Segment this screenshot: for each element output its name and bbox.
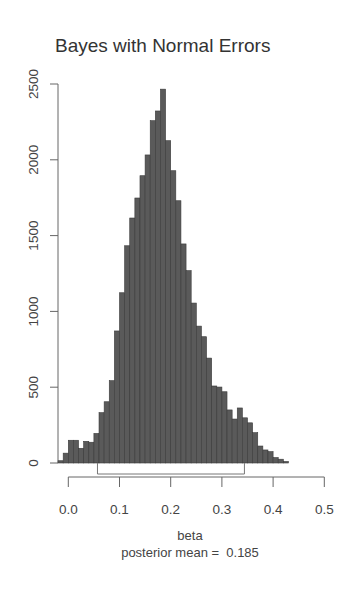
histogram-bar bbox=[89, 442, 94, 463]
x-tick-label: 0.3 bbox=[213, 502, 232, 517]
credible-interval-bracket bbox=[97, 463, 244, 474]
histogram-bar bbox=[171, 171, 176, 463]
histogram-bar bbox=[145, 155, 150, 463]
histogram-bar bbox=[278, 459, 283, 463]
histogram-bar bbox=[176, 201, 181, 463]
y-tick-label: 500 bbox=[26, 376, 41, 399]
x-tick-label: 0.1 bbox=[110, 502, 129, 517]
histogram-bar bbox=[242, 418, 247, 463]
histogram-bar bbox=[166, 141, 171, 463]
x-tick-label: 0.2 bbox=[161, 502, 180, 517]
histogram-bar bbox=[181, 244, 186, 463]
histogram-bar bbox=[258, 446, 263, 463]
histogram-bars bbox=[58, 89, 288, 463]
y-tick-label: 0 bbox=[26, 459, 41, 467]
y-tick-label: 2000 bbox=[26, 145, 41, 175]
histogram-bar bbox=[63, 453, 68, 463]
histogram-bar bbox=[273, 458, 278, 463]
histogram-bar bbox=[263, 450, 268, 463]
histogram-bar bbox=[140, 176, 145, 463]
y-tick-label: 1000 bbox=[26, 296, 41, 326]
histogram-bar bbox=[248, 423, 253, 463]
histogram-bar bbox=[155, 111, 160, 463]
histogram-bar bbox=[222, 392, 227, 463]
y-axis: 05001000150020002500 bbox=[26, 69, 58, 467]
histogram-bar bbox=[130, 218, 135, 463]
histogram-bar bbox=[160, 89, 165, 463]
histogram-bar bbox=[253, 433, 258, 463]
credible-interval-marker bbox=[97, 463, 244, 474]
histogram-bar bbox=[283, 461, 288, 463]
histogram-bar bbox=[79, 448, 84, 463]
histogram-bar bbox=[232, 419, 237, 463]
y-tick-label: 2500 bbox=[26, 69, 41, 99]
histogram-bar bbox=[68, 440, 73, 463]
y-tick-label: 1500 bbox=[26, 221, 41, 251]
histogram-bar bbox=[104, 402, 109, 463]
x-axis-label: beta bbox=[177, 528, 203, 543]
histogram-bar bbox=[237, 408, 242, 463]
histogram-bar bbox=[58, 461, 63, 463]
histogram-bar bbox=[99, 413, 104, 463]
histogram-bar bbox=[212, 386, 217, 463]
histogram-bar bbox=[207, 358, 212, 463]
histogram-bar bbox=[94, 433, 99, 463]
histogram-bar bbox=[120, 293, 125, 463]
histogram-bar bbox=[186, 271, 191, 463]
histogram-bar bbox=[84, 441, 89, 463]
histogram-bar bbox=[114, 331, 119, 463]
x-tick-label: 0.0 bbox=[59, 502, 78, 517]
posterior-mean-label: posterior mean = 0.185 bbox=[121, 545, 259, 560]
histogram-bar bbox=[227, 410, 232, 463]
histogram-bar bbox=[150, 121, 155, 463]
histogram-bar bbox=[135, 198, 140, 463]
histogram-bar bbox=[73, 440, 78, 463]
x-axis: 0.00.10.20.30.40.5 bbox=[59, 477, 334, 517]
histogram-bar bbox=[109, 381, 114, 463]
histogram-chart: Bayes with Normal Errors 050010001500200… bbox=[0, 0, 359, 598]
histogram-bar bbox=[125, 246, 130, 463]
histogram-bar bbox=[268, 452, 273, 463]
histogram-bar bbox=[217, 387, 222, 463]
chart-title: Bayes with Normal Errors bbox=[55, 35, 270, 56]
histogram-bar bbox=[191, 303, 196, 463]
x-tick-label: 0.5 bbox=[315, 502, 334, 517]
histogram-bar bbox=[201, 337, 206, 463]
x-tick-label: 0.4 bbox=[264, 502, 283, 517]
histogram-bar bbox=[196, 326, 201, 463]
